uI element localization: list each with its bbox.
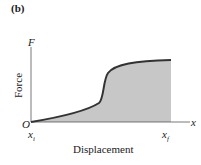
x-end-label: xf [162,129,169,143]
x-axis-label: Displacement [73,144,133,155]
figure: (b) F Force O x xi xf Displacement [0,0,201,165]
x-end-sub: f [167,135,169,143]
x-start-label: xi [28,129,35,143]
x-start-sub: i [33,135,35,143]
y-axis-label: Force [13,70,24,102]
x-symbol: x [191,117,196,128]
y-symbol: F [28,37,35,48]
